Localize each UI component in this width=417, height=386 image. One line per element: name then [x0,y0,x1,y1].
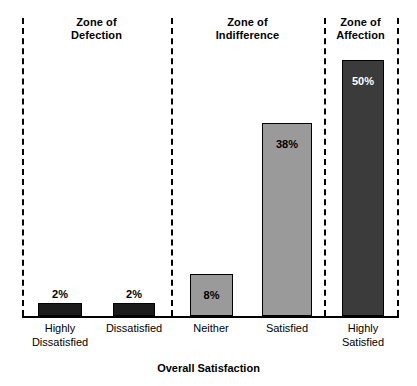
category-label-dissatisfied-line1: Dissatisfied [99,321,169,335]
zone-label-indifference-line1: Zone of [171,16,324,29]
x-axis-title: Overall Satisfaction [0,362,417,374]
bar-neither: 8% [190,274,233,316]
satisfaction-zone-bar-chart: Zone of Defection Zone of Indifference Z… [0,0,417,386]
category-label-satisfied-line1: Satisfied [254,321,320,335]
category-label-neither-line1: Neither [181,321,241,335]
category-label-highly-dissatisfied-line1: Highly [18,321,102,335]
bar-highly-satisfied: 50% [342,60,384,316]
zone-label-indifference: Zone of Indifference [171,16,324,42]
bar-highly-dissatisfied [38,303,82,316]
zone-label-defection-line2: Defection [22,29,171,42]
category-label-highly-satisfied-line2: Satisfied [331,335,395,349]
zone-label-defection-line1: Zone of [22,16,171,29]
zone-label-affection: Zone of Affection [324,16,397,42]
bar-value-satisfied: 38% [263,138,311,150]
category-label-satisfied: Satisfied [254,321,320,335]
x-axis-line [22,316,399,318]
x-axis-right-cap [397,310,399,317]
zone-label-indifference-line2: Indifference [171,29,324,42]
zone-divider-line-1 [22,18,24,316]
category-label-neither: Neither [181,321,241,335]
bar-dissatisfied [113,303,155,316]
zone-label-defection: Zone of Defection [22,16,171,42]
category-label-highly-dissatisfied-line2: Dissatisfied [18,335,102,349]
category-label-highly-satisfied-line1: Highly [331,321,395,335]
zone-divider-line-3 [324,18,326,316]
zone-divider-line-4 [397,18,399,316]
bar-value-dissatisfied: 2% [113,288,155,300]
category-label-dissatisfied: Dissatisfied [99,321,169,335]
category-label-highly-satisfied: Highly Satisfied [331,321,395,349]
category-label-highly-dissatisfied: Highly Dissatisfied [18,321,102,349]
x-axis-left-cap [22,310,24,317]
zone-label-affection-line2: Affection [324,29,397,42]
zone-label-affection-line1: Zone of [324,16,397,29]
bar-value-highly-satisfied: 50% [343,75,383,87]
bar-satisfied: 38% [262,123,312,316]
bar-value-neither: 8% [191,289,232,301]
bar-value-highly-dissatisfied: 2% [38,288,82,300]
zone-divider-line-2 [171,18,173,316]
